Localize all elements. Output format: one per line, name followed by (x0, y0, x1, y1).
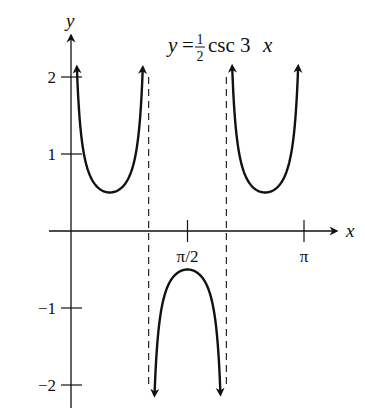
axes (49, 38, 334, 408)
y-tick-label: 1 (48, 145, 57, 164)
title-num: 1 (197, 32, 204, 47)
x-axis-label: x (345, 220, 355, 241)
title-den: 2 (197, 49, 204, 64)
title-func: csc 3 (208, 33, 251, 57)
title-lhs: y (166, 33, 178, 57)
chart: xyπ/2π21−1−2 y = 1 2 csc 3 x (0, 0, 365, 408)
labels: xyπ/2π21−1−2 (38, 10, 355, 395)
y-axis-label: y (64, 10, 75, 31)
y-tick-label: −1 (38, 299, 56, 318)
y-tick-label: 2 (48, 68, 57, 87)
title-var: x (262, 33, 273, 57)
chart-title: y = 1 2 csc 3 x (166, 32, 273, 64)
y-tick-label: −2 (38, 376, 56, 395)
csc-branch-curve (77, 69, 143, 192)
csc-branch-curve (232, 68, 298, 192)
x-tick-label: π (300, 247, 309, 266)
title-eq: = (182, 33, 194, 57)
x-tick-label: π/2 (177, 247, 199, 266)
csc-branch-curve (155, 270, 221, 394)
